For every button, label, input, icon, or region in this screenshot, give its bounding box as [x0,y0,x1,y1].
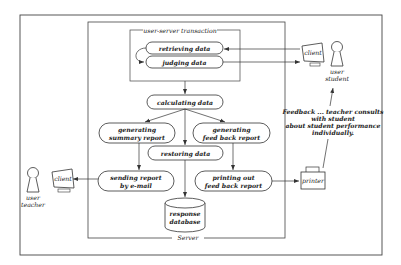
svg-text:generating: generating [118,126,157,134]
process-calculating-data: calculating data [147,95,223,109]
svg-text:calculating data: calculating data [157,99,213,107]
svg-text:sending report: sending report [110,174,161,182]
svg-text:with student: with student [311,115,355,122]
svg-text:retrieving data: retrieving data [159,45,211,53]
transaction-label: user-server transaction [143,27,216,34]
svg-text:user: user [330,68,345,75]
svg-text:printer: printer [302,177,325,185]
svg-text:feed back report: feed back report [204,182,262,190]
response-database: response database [165,198,205,232]
svg-text:generating: generating [212,126,251,134]
process-judging-data: judging data [146,56,223,68]
svg-text:client: client [304,49,322,56]
svg-text:response: response [169,210,200,218]
svg-text:teacher: teacher [21,201,46,208]
svg-text:summary report: summary report [109,134,165,142]
svg-text:individually.: individually. [312,129,354,137]
teacher-client-icon: client [52,169,74,192]
svg-text:printing out: printing out [212,174,254,182]
system-diagram: Server user-server transaction retrievin… [0,0,401,265]
svg-text:feed back report: feed back report [202,134,260,142]
svg-text:user: user [26,194,41,201]
process-retrieving-data: retrieving data [146,42,223,54]
svg-text:judging data: judging data [161,59,207,67]
process-printing-feedback-report: printing out feed back report [195,171,272,191]
process-restoring-data: restoring data [148,146,223,160]
student-client-icon: client [302,43,324,66]
teacher-user-icon: user teacher [21,168,46,209]
svg-text:database: database [170,218,201,225]
svg-text:by e-mail: by e-mail [120,182,152,190]
printer-icon: printer [301,167,325,189]
svg-text:Feedback ... teacher consults: Feedback ... teacher consults [282,108,384,115]
svg-text:student: student [325,75,349,82]
svg-text:client: client [54,175,72,182]
process-generating-summary-report: generating summary report [99,123,175,143]
feedback-note: Feedback ... teacher consults with stude… [282,108,384,137]
transaction-boundary [130,30,240,81]
process-generating-feedback-report: generating feed back report [193,123,270,143]
student-user-icon: user student [325,42,349,83]
server-label: Server [178,234,200,241]
process-sending-report-email: sending report by e-mail [98,171,174,191]
svg-text:restoring data: restoring data [161,150,210,158]
